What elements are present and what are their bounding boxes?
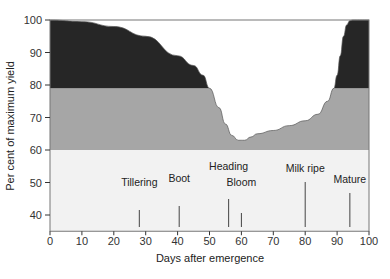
- stage-label: Boot: [168, 172, 190, 184]
- y-tick-label: 60: [30, 144, 42, 156]
- y-tick-label: 100: [24, 14, 42, 26]
- x-tick-label: 0: [47, 235, 53, 247]
- y-axis-label: Per cent of maximum yield: [4, 61, 16, 191]
- stage-label: Mature: [334, 173, 367, 185]
- x-axis-label: Days after emergence: [156, 252, 264, 264]
- x-tick-label: 90: [331, 235, 343, 247]
- x-tick-label: 10: [76, 235, 88, 247]
- y-tick-label: 70: [30, 112, 42, 124]
- y-tick-label: 40: [30, 209, 42, 221]
- yield-chart: 4050607080901000102030405060708090100Til…: [0, 0, 390, 279]
- x-tick-label: 60: [235, 235, 247, 247]
- stage-label: Heading: [209, 160, 248, 172]
- y-tick-label: 80: [30, 79, 42, 91]
- stage-label: Milk ripe: [286, 162, 325, 174]
- y-tick-label: 50: [30, 177, 42, 189]
- x-tick-label: 70: [267, 235, 279, 247]
- y-tick-label: 90: [30, 47, 42, 59]
- x-tick-label: 80: [299, 235, 311, 247]
- x-tick-label: 30: [140, 235, 152, 247]
- x-tick-label: 100: [360, 235, 378, 247]
- x-tick-label: 50: [203, 235, 215, 247]
- x-tick-label: 20: [108, 235, 120, 247]
- plot-area: [50, 20, 369, 231]
- x-tick-label: 40: [171, 235, 183, 247]
- stage-label: Tillering: [121, 176, 158, 188]
- stage-label: Bloom: [227, 176, 257, 188]
